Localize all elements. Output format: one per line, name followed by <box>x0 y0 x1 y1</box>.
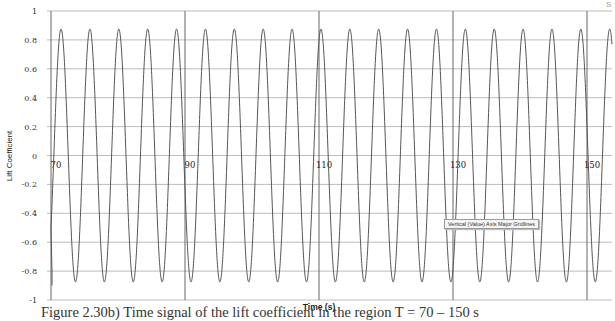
y-tick-label: -0.2 <box>22 180 37 189</box>
y-tick-label: 0 <box>32 152 37 161</box>
y-tick-label: -0.6 <box>22 238 37 247</box>
y-axis-ticks: 10.80.60.40.20-0.2-0.4-0.6-0.8-1 <box>22 7 37 305</box>
y-axis-label: Lift Coefficient <box>5 130 14 181</box>
figure-caption: Figure 2.30b) Time signal of the lift co… <box>41 304 479 321</box>
x-tick-label: 90 <box>185 160 196 170</box>
y-tick-label: 0.6 <box>24 65 37 74</box>
x-tick-label: 150 <box>584 160 600 170</box>
y-tick-label: 0.8 <box>24 36 37 45</box>
gridline-tooltip: Vertical (Value) Axis Major Gridlines <box>444 219 539 229</box>
y-tick-label: 0.4 <box>24 94 37 103</box>
lift-coefficient-series <box>51 29 612 285</box>
x-tick-label: 110 <box>316 160 332 170</box>
x-axis-ticks: 7090110130150 <box>51 160 601 170</box>
corner-mark: S <box>606 0 611 9</box>
y-tick-label: -0.4 <box>22 209 37 218</box>
x-tick-label: 70 <box>51 160 62 170</box>
y-tick-label: 0.2 <box>24 123 37 132</box>
gridlines <box>47 11 612 300</box>
y-tick-label: 1 <box>32 7 37 16</box>
y-tick-label: -0.8 <box>22 267 37 276</box>
y-tick-label: -1 <box>29 296 37 305</box>
